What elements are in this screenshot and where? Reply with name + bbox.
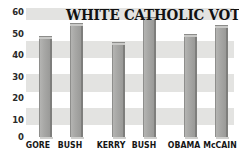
y-axis-tick-30: 30 — [0, 73, 24, 81]
bar-shadow — [71, 137, 84, 139]
x-axis-label-mccain: McCAIN — [200, 140, 239, 150]
bar-gore[interactable] — [39, 36, 52, 137]
x-axis-label-kerry: KERRY — [93, 140, 129, 150]
bar-side — [226, 27, 228, 137]
bar-side — [154, 19, 156, 137]
bar-shadow — [216, 137, 229, 139]
bar-shadow — [40, 137, 53, 139]
bar-face — [112, 42, 123, 137]
bar-shadow — [113, 137, 126, 139]
bar-mccain[interactable] — [215, 25, 228, 137]
bar-bush-2004[interactable] — [143, 17, 156, 137]
chart-title: WHITE CATHOLIC VOTING — [66, 7, 224, 22]
bar-cap — [112, 42, 125, 45]
bar-face — [143, 17, 154, 137]
bar-cap — [184, 34, 197, 37]
bar-shadow — [144, 137, 157, 139]
x-axis-label-bush-2004: BUSH — [127, 140, 161, 150]
x-axis-label-bush-2000: BUSH — [53, 140, 87, 150]
bar-cap — [215, 25, 228, 28]
bar-side — [81, 25, 83, 137]
y-axis-tick-60: 60 — [0, 8, 24, 16]
bar-kerry[interactable] — [112, 42, 125, 137]
bar-face — [184, 34, 195, 137]
x-axis-labels: GORE BUSH KERRY BUSH OBAMA McCAIN — [0, 140, 239, 154]
bar-cap — [70, 23, 83, 26]
bar-face — [70, 23, 81, 137]
bars-layer — [26, 8, 234, 137]
bar-side — [195, 36, 197, 137]
bar-shadow — [185, 137, 198, 139]
y-axis-tick-40: 40 — [0, 51, 24, 59]
y-axis-tick-20: 20 — [0, 94, 24, 102]
bar-bush-2000[interactable] — [70, 23, 83, 137]
y-axis-tick-10: 10 — [0, 116, 24, 124]
bar-side — [50, 38, 52, 137]
x-axis-label-gore: GORE — [21, 140, 55, 150]
bar-face — [39, 36, 50, 137]
bar-side — [123, 44, 125, 137]
y-axis-tick-50: 50 — [0, 30, 24, 38]
bar-cap — [39, 36, 52, 39]
chart-container: WHITE CATHOLIC VOTING 60 50 40 30 20 10 … — [0, 0, 239, 163]
x-axis-label-obama: OBAMA — [164, 140, 204, 150]
bar-obama[interactable] — [184, 34, 197, 137]
y-axis: 60 50 40 30 20 10 0 — [0, 8, 24, 137]
bar-face — [215, 25, 226, 137]
